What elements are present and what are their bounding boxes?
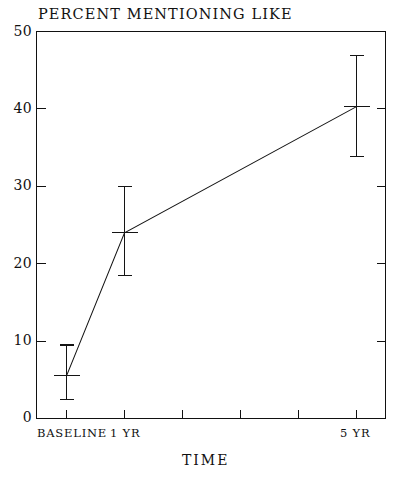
y-axis-ticks-right <box>377 109 386 341</box>
data-series-line <box>67 107 357 376</box>
chart-title: PERCENT MENTIONING LIKE <box>38 6 293 22</box>
y-tick-label-10: 10 <box>2 332 32 348</box>
y-tick-label-0: 0 <box>2 409 32 425</box>
x-axis-title: TIME <box>182 452 229 468</box>
plot-frame <box>37 32 386 419</box>
x-tick-label-1yr: 1 YR <box>110 426 140 440</box>
x-axis-ticks <box>67 410 357 419</box>
y-tick-label-40: 40 <box>2 100 32 116</box>
chart-figure: PERCENT MENTIONING LIKE 50 40 30 20 10 0… <box>0 0 400 481</box>
y-tick-label-30: 30 <box>2 177 32 193</box>
y-tick-label-20: 20 <box>2 255 32 271</box>
y-tick-label-50: 50 <box>2 23 32 39</box>
x-tick-label-5yr: 5 YR <box>340 426 370 440</box>
chart-canvas <box>0 0 400 481</box>
y-axis-ticks <box>37 109 46 341</box>
data-point-baseline <box>54 368 80 384</box>
x-tick-label-baseline: BASELINE <box>37 426 107 440</box>
